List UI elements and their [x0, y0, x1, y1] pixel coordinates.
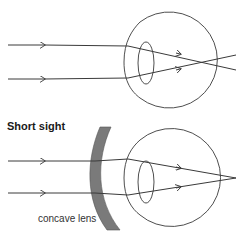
corrected-rays [8, 159, 236, 195]
concave-lens-label: concave lens [38, 213, 96, 224]
eye-lens [138, 161, 154, 203]
uncorrected-rays [8, 45, 236, 79]
uncorrected-eye [124, 12, 217, 108]
short-sight-heading: Short sight [7, 120, 65, 132]
corrected-eye [124, 129, 221, 227]
